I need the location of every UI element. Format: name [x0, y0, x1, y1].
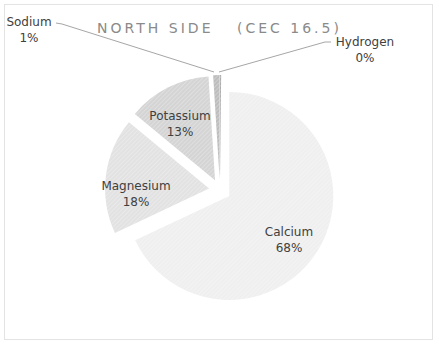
hydrogen-leader-line	[219, 42, 331, 72]
label-sodium: Sodium1%	[4, 14, 54, 46]
label-hydrogen: Hydrogen0%	[332, 34, 398, 66]
sodium-leader-line	[56, 23, 214, 72]
slice-hatch-hydrogen	[220, 75, 221, 179]
label-calcium: Calcium68%	[257, 224, 321, 256]
label-potassium: Potassium13%	[140, 108, 220, 140]
label-magnesium: Magnesium18%	[96, 178, 176, 210]
